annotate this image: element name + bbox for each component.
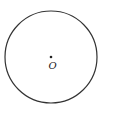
diagram-canvas: O	[0, 0, 133, 113]
center-point	[50, 56, 53, 59]
center-label: O	[49, 60, 57, 71]
circle-diagram: O	[0, 0, 133, 113]
